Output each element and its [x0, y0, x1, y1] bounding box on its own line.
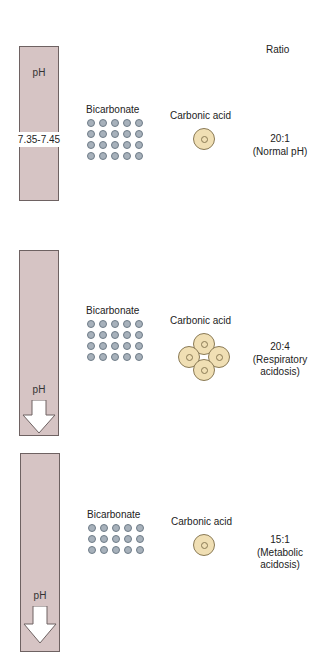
condition-label: (Normal pH) [240, 146, 320, 158]
bicarbonate-dot [87, 342, 95, 350]
bicarbonate-dot [87, 141, 95, 149]
bicarbonate-dot [100, 524, 108, 532]
ph-bar-metabolic: pH [20, 453, 60, 652]
condition-label-line2: acidosis) [240, 559, 320, 571]
bicarbonate-dot [136, 524, 144, 532]
bicarbonate-dot [135, 320, 143, 328]
bicarbonate-dot [123, 130, 131, 138]
bicarbonate-label: Bicarbonate [86, 305, 139, 316]
bicarbonate-dot [123, 320, 131, 328]
bicarbonate-dot [88, 535, 96, 543]
bicarbonate-dot [136, 535, 144, 543]
ph-down-arrow-icon [22, 400, 56, 434]
bicarbonate-dot [111, 130, 119, 138]
ph-bar-respiratory: pH [19, 250, 59, 436]
ph-label: pH [21, 590, 59, 601]
bicarbonate-dot [99, 353, 107, 361]
bicarbonate-dot [135, 331, 143, 339]
ratio-value: 20:4 [240, 341, 320, 353]
bicarbonate-dot [87, 331, 95, 339]
bicarbonate-dot [123, 152, 131, 160]
bicarbonate-dot [100, 546, 108, 554]
bicarbonate-dot [88, 524, 96, 532]
bicarbonate-dot [111, 320, 119, 328]
bicarbonate-dot [135, 353, 143, 361]
bicarbonate-dot [124, 546, 132, 554]
bicarbonate-dot [124, 524, 132, 532]
bicarbonate-dot [111, 141, 119, 149]
bicarbonate-label: Bicarbonate [87, 509, 140, 520]
carbonic-acid-molecule [193, 128, 215, 150]
bicarbonate-dot [111, 342, 119, 350]
bicarbonate-dot [112, 546, 120, 554]
ph-label: pH [20, 67, 58, 78]
bicarbonate-dot [100, 535, 108, 543]
bicarbonate-dot [123, 331, 131, 339]
bicarbonate-dot [99, 119, 107, 127]
bicarbonate-dot [112, 535, 120, 543]
ph-range-label: 7.35-7.45 [17, 132, 61, 147]
bicarbonate-dot [99, 320, 107, 328]
bicarbonate-dot [135, 342, 143, 350]
bicarbonate-dot [87, 119, 95, 127]
bicarbonate-dot [99, 141, 107, 149]
bicarbonate-dot [112, 524, 120, 532]
bicarbonate-dot [123, 141, 131, 149]
carbonic-acid-molecule [193, 534, 215, 556]
bicarbonate-dot [111, 152, 119, 160]
bicarbonate-dot [87, 320, 95, 328]
condition-label-line1: (Respiratory [240, 354, 320, 366]
bicarbonate-dot [87, 130, 95, 138]
bicarbonate-dot [99, 331, 107, 339]
ratio-value: 15:1 [240, 534, 320, 546]
bicarbonate-grid [88, 524, 144, 554]
bicarbonate-dot [135, 119, 143, 127]
ratio-value: 20:1 [240, 133, 320, 145]
bicarbonate-dot [124, 535, 132, 543]
ratio-heading: Ratio [266, 44, 289, 55]
carbonic-acid-label: Carbonic acid [170, 315, 231, 326]
carbonic-acid-label: Carbonic acid [170, 110, 231, 121]
bicarbonate-label: Bicarbonate [86, 104, 139, 115]
bicarbonate-dot [123, 342, 131, 350]
bicarbonate-dot [136, 546, 144, 554]
ph-down-arrow-icon [23, 606, 57, 644]
bicarbonate-dot [135, 141, 143, 149]
bicarbonate-dot [111, 331, 119, 339]
condition-label-line2: acidosis) [240, 366, 320, 378]
bicarbonate-dot [123, 119, 131, 127]
bicarbonate-dot [111, 353, 119, 361]
carbonic-acid-label: Carbonic acid [171, 516, 232, 527]
bicarbonate-dot [87, 152, 95, 160]
carbonic-acid-molecule [193, 359, 215, 381]
bicarbonate-dot [88, 546, 96, 554]
bicarbonate-grid [87, 119, 143, 160]
bicarbonate-dot [111, 119, 119, 127]
condition-label-line1: (Metabolic [240, 547, 320, 559]
bicarbonate-dot [123, 353, 131, 361]
bicarbonate-dot [135, 130, 143, 138]
bicarbonate-dot [87, 353, 95, 361]
ph-bar-normal: pH 7.35-7.45 [19, 46, 59, 201]
bicarbonate-dot [99, 152, 107, 160]
bicarbonate-dot [99, 342, 107, 350]
bicarbonate-grid [87, 320, 143, 361]
bicarbonate-dot [99, 130, 107, 138]
bicarbonate-dot [135, 152, 143, 160]
ph-label: pH [20, 384, 58, 395]
